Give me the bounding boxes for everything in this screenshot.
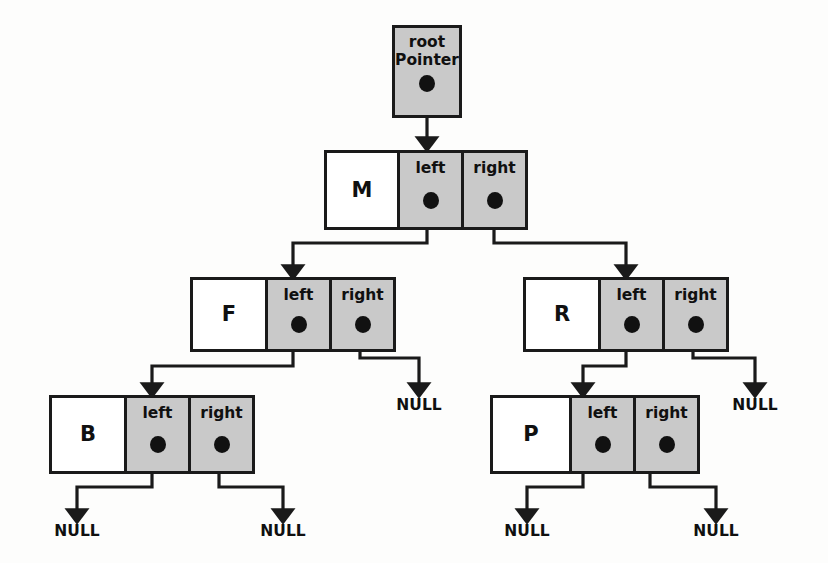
node-f-left-cell: left <box>265 280 329 349</box>
node-b-right-cell: right <box>188 398 252 471</box>
root-pointer-dot <box>419 75 435 92</box>
node-m-left-cell: left <box>397 153 461 227</box>
node-m-value-cell: M <box>327 153 397 227</box>
node-f-left-dot <box>291 316 307 333</box>
node-p-right-dot <box>659 436 675 453</box>
node-b-value-cell: B <box>52 398 124 471</box>
null-label-b-left: NULL <box>54 522 99 540</box>
null-label-f-right: NULL <box>396 396 441 414</box>
node-r-value-cell: R <box>526 280 598 349</box>
null-label-b-right: NULL <box>260 522 305 540</box>
node-r-right-label: right <box>665 286 726 304</box>
node-r-left-label: left <box>601 286 662 304</box>
node-f: F left right <box>190 277 396 352</box>
node-p-right-label: right <box>636 404 697 422</box>
node-b-left-label: left <box>127 404 188 422</box>
node-b-value: B <box>80 424 96 445</box>
node-p-right-cell: right <box>633 398 697 471</box>
node-p-value-cell: P <box>493 398 569 471</box>
node-m-left-label: left <box>400 159 461 177</box>
node-b-right-label: right <box>191 404 252 422</box>
node-f-right-cell: right <box>329 280 393 349</box>
node-p: P left right <box>490 395 700 474</box>
node-p-left-label: left <box>572 404 633 422</box>
node-m-left-dot <box>423 192 439 209</box>
node-m-right-cell: right <box>461 153 525 227</box>
node-b-left-dot <box>150 436 166 453</box>
root-pointer-box: rootPointer <box>392 25 462 118</box>
node-p-left-dot <box>595 436 611 453</box>
node-m: M left right <box>324 150 528 230</box>
node-r-right-dot <box>688 316 704 333</box>
node-r-right-cell: right <box>662 280 726 349</box>
node-r-value: R <box>554 304 570 325</box>
node-p-value: P <box>523 424 538 445</box>
node-m-right-dot <box>487 192 503 209</box>
node-f-value-cell: F <box>193 280 265 349</box>
node-b-left-cell: left <box>124 398 188 471</box>
node-b-right-dot <box>214 436 230 453</box>
null-label-r-right: NULL <box>732 396 777 414</box>
node-f-left-label: left <box>268 286 329 304</box>
node-r-left-cell: left <box>598 280 662 349</box>
root-pointer-label: rootPointer <box>395 34 459 70</box>
node-f-right-dot <box>355 316 371 333</box>
node-m-right-label: right <box>464 159 525 177</box>
node-r: R left right <box>523 277 729 352</box>
null-label-p-right: NULL <box>693 522 738 540</box>
node-b: B left right <box>49 395 255 474</box>
node-m-value: M <box>352 180 373 201</box>
node-r-left-dot <box>624 316 640 333</box>
diagram-canvas: rootPointer M left right F left right <box>0 0 828 563</box>
null-label-p-left: NULL <box>504 522 549 540</box>
node-p-left-cell: left <box>569 398 633 471</box>
node-f-right-label: right <box>332 286 393 304</box>
node-f-value: F <box>222 304 236 325</box>
